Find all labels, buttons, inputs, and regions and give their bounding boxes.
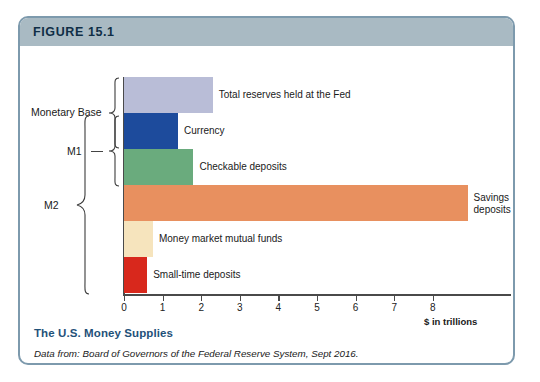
- figure-header: FIGURE 15.1: [20, 18, 513, 46]
- x-axis-tick: [356, 295, 357, 301]
- group-label-monetary-base: Monetary Base: [31, 106, 102, 118]
- x-axis-unit-label: $ in trillions: [424, 316, 477, 327]
- bar-label-small-time-deposits: Small-time deposits: [153, 269, 240, 281]
- group-label-m1: M1: [67, 145, 82, 157]
- x-axis-tick-label: 5: [314, 302, 320, 313]
- x-axis-tick: [124, 295, 125, 301]
- x-axis-tick: [278, 295, 279, 301]
- group-label-m2: M2: [44, 199, 59, 211]
- figure-number-label: FIGURE 15.1: [20, 25, 115, 39]
- figure-caption-source: Data from: Board of Governors of the Fed…: [34, 348, 359, 359]
- bar-label-total-reserves: Total reserves held at the Fed: [219, 89, 351, 101]
- x-axis-tick: [201, 295, 202, 301]
- figure-caption-title: The U.S. Money Supplies: [34, 327, 173, 339]
- chart-plot-area: Total reserves held at the Fed Currency …: [20, 46, 513, 365]
- x-axis-tick-label: 7: [391, 302, 397, 313]
- x-axis-tick: [394, 295, 395, 301]
- x-axis-tick-label: 8: [430, 302, 436, 313]
- x-axis-tick: [163, 295, 164, 301]
- x-axis-tick-label: 2: [198, 302, 204, 313]
- x-axis-tick: [240, 295, 241, 301]
- bar-currency: [124, 113, 178, 149]
- x-axis-tick-label: 3: [237, 302, 243, 313]
- figure-card: FIGURE 15.1 Total reserves held at the F…: [18, 16, 515, 365]
- bar-small-time-deposits: [124, 257, 147, 293]
- bar-savings-deposits: [124, 185, 468, 221]
- bar-label-money-market-mutual-funds: Money market mutual funds: [159, 233, 282, 245]
- m1-leader-line: [91, 151, 103, 152]
- bracket-m1: [107, 115, 120, 187]
- x-axis-tick-label: 4: [276, 302, 282, 313]
- bar-money-market-mutual-funds: [124, 221, 153, 257]
- bar-label-savings-deposits: Savings deposits: [474, 192, 515, 215]
- x-axis-tick-label: 1: [160, 302, 166, 313]
- x-axis-tick-label: 6: [353, 302, 359, 313]
- bracket-m2: [75, 115, 90, 295]
- bar-label-currency: Currency: [184, 125, 225, 137]
- bar-label-checkable-deposits: Checkable deposits: [199, 161, 286, 173]
- bar-checkable-deposits: [124, 149, 193, 185]
- x-axis-tick: [433, 295, 434, 301]
- bar-total-reserves: [124, 77, 213, 113]
- x-axis-tick: [317, 295, 318, 301]
- x-axis-tick-label: 0: [121, 302, 127, 313]
